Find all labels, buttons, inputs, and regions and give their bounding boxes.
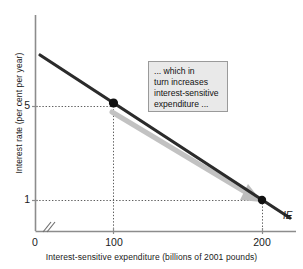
annotation-line-3: interest-sensitive	[154, 88, 227, 99]
chart-plot-area	[0, 0, 303, 269]
movement-arrow-icon	[112, 112, 262, 202]
axis-break-icon	[43, 222, 55, 232]
x-axis-tick-0: 0	[25, 236, 45, 248]
annotation-box: ... which in turn increases interest-sen…	[148, 61, 228, 112]
y-axis-tick-1: 1	[10, 193, 30, 205]
ie-curve-label: IE	[283, 210, 292, 221]
data-point-200-1	[258, 196, 266, 204]
chart-figure: Interest rate (per cent per year) Intere…	[0, 0, 303, 269]
x-axis-title: Interest-sensitive expenditure (billions…	[0, 252, 303, 262]
y-axis-title: Interest rate (per cent per year)	[14, 38, 24, 188]
y-axis-tick-5: 5	[10, 99, 30, 111]
annotation-line-2: turn increases	[154, 77, 227, 88]
annotation-line-4: expenditure ...	[154, 99, 227, 110]
x-axis-tick-100: 100	[98, 236, 130, 248]
annotation-line-1: ... which in	[154, 66, 227, 77]
data-point-100-5	[109, 98, 118, 107]
x-axis-tick-200: 200	[246, 236, 278, 248]
